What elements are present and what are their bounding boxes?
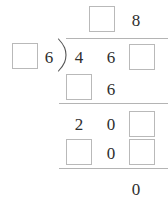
second-product-digit-ones-blank[interactable] (129, 139, 155, 165)
second-product-digit-hundreds-blank[interactable] (66, 139, 92, 165)
first-difference-digit-tens: 0 (96, 109, 126, 139)
remainder-digit: 0 (121, 174, 151, 197)
second-product-digit-tens: 0 (96, 138, 126, 168)
first-product-digit-hundreds-blank[interactable] (66, 74, 92, 100)
first-difference-digit-hundreds: 2 (64, 109, 94, 139)
first-difference-digit-ones-blank[interactable] (129, 111, 155, 137)
dividend-digit-hundreds: 4 (64, 42, 94, 72)
dividend-digit-ones-blank[interactable] (129, 44, 155, 70)
quotient-digit-tens-blank[interactable] (89, 6, 115, 32)
subtraction-rule-first (59, 103, 168, 104)
first-product-digit-tens: 6 (96, 74, 126, 104)
division-vinculum (66, 38, 168, 39)
subtraction-rule-second (59, 168, 168, 169)
dividend-digit-tens: 6 (96, 42, 126, 72)
quotient-digit-ones: 8 (121, 5, 151, 35)
long-division-worksheet: 8 6 4 6 6 2 0 0 0 (0, 0, 168, 197)
divisor-digit-ones: 6 (41, 42, 57, 72)
divisor-digit-tens-blank[interactable] (12, 43, 38, 69)
